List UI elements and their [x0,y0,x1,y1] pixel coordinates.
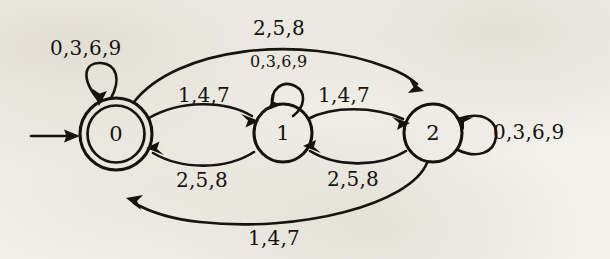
state-diagram-canvas: 0 1 2 0,3,6,9 0,3,6,9 0,3,6,9 2,5,8 1,4,… [0,0,610,259]
edge-state-0-to-state-1[interactable] [149,104,259,127]
edge-label-0-to-1: 1,4,7 [178,83,230,107]
edge-state-2-to-state-1[interactable] [303,140,406,163]
state-label-1: 1 [276,121,289,145]
edge-state-1-to-state-2[interactable] [308,109,410,130]
state-label-0: 0 [109,122,122,146]
edge-label-2-to-1: 2,5,8 [327,167,379,191]
edge-label-1-to-2: 1,4,7 [318,83,370,107]
self-loop-state-1[interactable] [268,84,303,116]
edge-state-1-to-state-0[interactable] [146,142,254,166]
edge-state-2-to-state-0-bottom-arc[interactable] [126,163,427,224]
edge-label-top-arc-0-to-2: 2,5,8 [253,16,305,40]
edge-label-1-to-0: 2,5,8 [176,168,228,192]
state-label-2: 2 [426,121,439,145]
edge-label-bottom-arc-2-to-0: 1,4,7 [248,226,300,250]
edge-label-self-loop-0: 0,3,6,9 [50,36,121,60]
edge-label-self-loop-2: 0,3,6,9 [493,120,564,144]
start-arrow [31,130,80,143]
edge-label-self-loop-1: 0,3,6,9 [250,52,307,71]
